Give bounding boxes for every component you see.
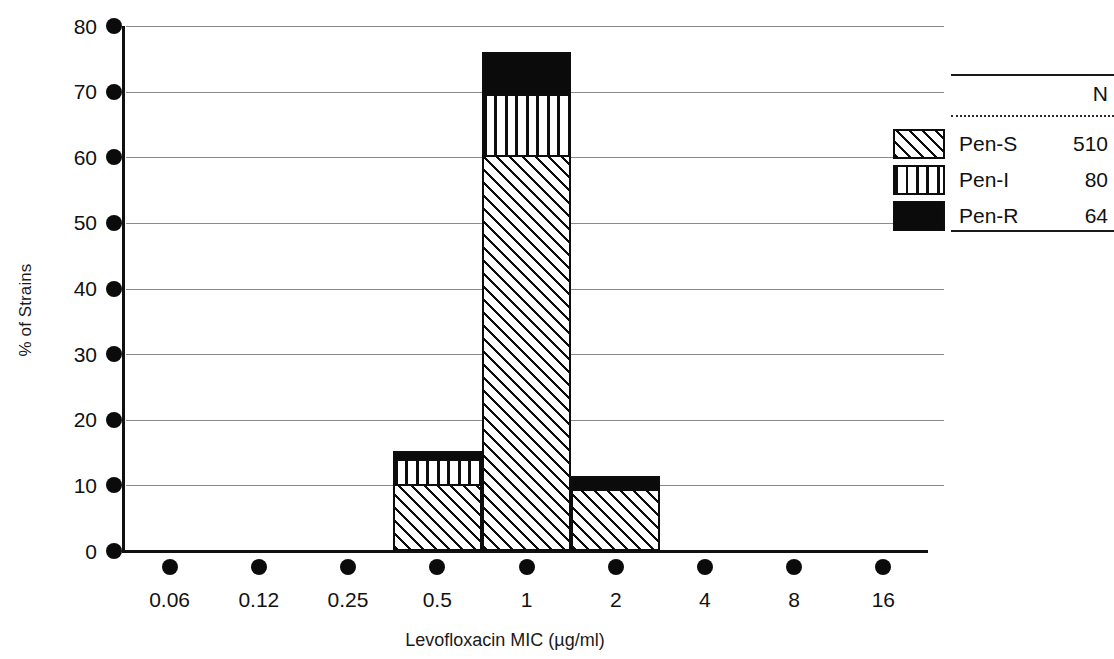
y-tick-label: 40 — [74, 278, 97, 299]
bar-slot — [482, 26, 571, 551]
x-tick-bullet-icon — [340, 559, 356, 575]
bar-segment-pen-s — [573, 491, 658, 549]
y-axis-title: % of Strains — [16, 240, 36, 380]
y-tick-bullet-icon — [106, 477, 122, 493]
x-tick-bullet-icon — [519, 559, 535, 575]
x-tick-label: 8 — [749, 589, 839, 610]
y-tick: 80 — [38, 14, 122, 38]
x-tick: 4 — [660, 559, 750, 610]
y-tick-label: 60 — [74, 147, 97, 168]
x-tick-label: 16 — [838, 589, 928, 610]
y-tick: 30 — [38, 342, 122, 366]
x-tick-bullet-icon — [251, 559, 267, 575]
y-tick-bullet-icon — [106, 543, 122, 559]
bar-segment-pen-r — [573, 478, 658, 491]
legend-count: 64 — [1042, 204, 1114, 228]
stacked-bar — [482, 52, 571, 551]
bar-segment-pen-i — [484, 96, 569, 157]
x-tick-bullet-icon — [162, 559, 178, 575]
y-tick-bullet-icon — [106, 149, 122, 165]
x-tick: 0.5 — [392, 559, 482, 610]
legend-swatch-pen-i — [893, 165, 945, 195]
y-tick-bullet-icon — [106, 215, 122, 231]
y-tick-label: 10 — [74, 475, 97, 496]
y-tick-label: 50 — [74, 212, 97, 233]
y-tick-bullet-icon — [106, 84, 122, 100]
x-tick-bullet-icon — [697, 559, 713, 575]
y-tick: 20 — [38, 408, 122, 432]
stacked-bar — [571, 476, 660, 551]
plot-area — [125, 26, 928, 551]
y-tick-label: 80 — [74, 16, 97, 37]
x-tick-label: 0.12 — [214, 589, 304, 610]
legend-count: 510 — [1042, 132, 1114, 156]
y-tick-label: 20 — [74, 409, 97, 430]
legend-label: Pen-R — [959, 204, 1042, 228]
stacked-bar — [393, 451, 482, 551]
legend-text: Pen-I80 — [945, 168, 1114, 192]
x-tick: 2 — [571, 559, 661, 610]
y-tick: 10 — [38, 473, 122, 497]
legend-top-rule — [951, 74, 1114, 76]
y-tick: 40 — [38, 277, 122, 301]
bar-slot — [571, 26, 660, 551]
y-tick-bullet-icon — [106, 412, 122, 428]
bar-slot — [393, 26, 482, 551]
legend-text: Pen-R64 — [945, 204, 1114, 228]
legend-swatch-pen-r — [893, 201, 945, 231]
legend-header-n: N — [951, 82, 1114, 106]
y-tick: 70 — [38, 80, 122, 104]
bar-segment-pen-s — [484, 157, 569, 549]
x-tick-bullet-icon — [608, 559, 624, 575]
bar-segment-pen-r — [484, 54, 569, 96]
legend-count: 80 — [1042, 168, 1114, 192]
legend-bottom-rule — [951, 230, 1114, 232]
y-tick-label: 30 — [74, 344, 97, 365]
y-tick: 0 — [38, 539, 122, 563]
legend-item-pen-s: Pen-S510 — [893, 126, 1114, 162]
legend-header-divider — [951, 115, 1114, 117]
x-tick: 0.12 — [214, 559, 304, 610]
x-tick-label: 2 — [571, 589, 661, 610]
x-tick: 16 — [838, 559, 928, 610]
bar-segment-pen-i — [395, 461, 480, 486]
x-tick-bullet-icon — [875, 559, 891, 575]
legend-item-pen-r: Pen-R64 — [893, 198, 1114, 234]
x-tick-label: 0.25 — [303, 589, 393, 610]
y-tick-bullet-icon — [106, 18, 122, 34]
bar-segment-pen-r — [395, 453, 480, 461]
y-tick: 50 — [38, 211, 122, 235]
y-tick-label: 70 — [74, 81, 97, 102]
y-tick-bullet-icon — [106, 346, 122, 362]
legend-label: Pen-I — [959, 168, 1042, 192]
x-tick: 0.25 — [303, 559, 393, 610]
x-tick-label: 4 — [660, 589, 750, 610]
bar-segment-pen-s — [395, 486, 480, 549]
x-tick-bullet-icon — [429, 559, 445, 575]
x-axis-title: Levofloxacin MIC (µg/ml) — [0, 630, 1010, 651]
legend-text: Pen-S510 — [945, 132, 1114, 156]
legend-swatch-pen-s — [893, 129, 945, 159]
y-tick: 60 — [38, 145, 122, 169]
x-tick-label: 0.5 — [392, 589, 482, 610]
legend-label: Pen-S — [959, 132, 1042, 156]
x-tick: 1 — [482, 559, 572, 610]
x-tick: 0.06 — [125, 559, 215, 610]
y-tick-bullet-icon — [106, 281, 122, 297]
x-tick-label: 1 — [482, 589, 572, 610]
x-tick-bullet-icon — [786, 559, 802, 575]
chart-figure: % of Strains 01020304050607080 0.060.120… — [0, 0, 1114, 659]
y-tick-label: 0 — [85, 541, 97, 562]
x-tick: 8 — [749, 559, 839, 610]
x-tick-label: 0.06 — [125, 589, 215, 610]
legend-item-pen-i: Pen-I80 — [893, 162, 1114, 198]
